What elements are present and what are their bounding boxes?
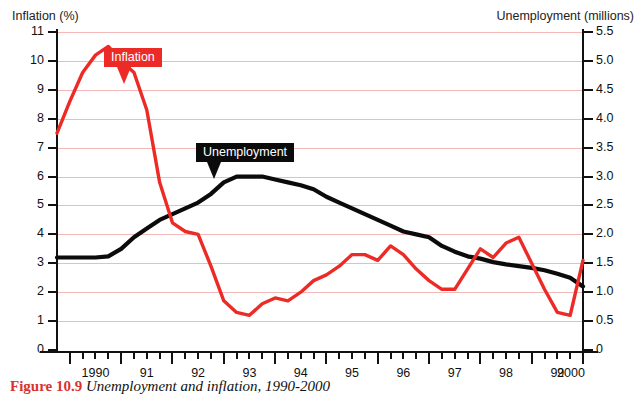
figure-caption: Figure 10.9 Unemployment and inflation, …: [10, 378, 330, 395]
unemployment-callout: Unemployment: [196, 143, 294, 162]
right-tick: [584, 233, 593, 235]
left-tick-label: 11: [31, 25, 44, 38]
x-tick-label: 97: [448, 366, 462, 380]
x-tick-minor: [518, 353, 520, 359]
left-tick: [48, 291, 57, 293]
left-axis-title: Inflation (%): [12, 9, 79, 23]
left-tick-label: 8: [37, 112, 44, 125]
x-tick-minor: [569, 353, 571, 359]
x-tick-minor: [236, 353, 238, 359]
figure-caption-text: Unemployment and inflation, 1990-2000: [82, 378, 330, 394]
x-tick-major: [274, 353, 276, 364]
x-tick-major: [531, 353, 533, 364]
x-tick-minor: [184, 353, 186, 359]
right-tick: [584, 349, 593, 351]
x-tick-minor: [107, 353, 109, 359]
left-tick: [48, 176, 57, 178]
x-tick-minor: [248, 353, 250, 359]
x-tick-minor: [300, 353, 302, 359]
right-tick-label: 4.0: [596, 112, 613, 125]
left-tick: [48, 31, 57, 33]
gridline: [57, 90, 583, 91]
right-tick: [584, 262, 593, 264]
left-tick-label: 6: [37, 170, 44, 183]
right-tick: [584, 291, 593, 293]
x-tick-minor: [505, 353, 507, 359]
x-tick-label: 96: [396, 366, 410, 380]
x-tick-minor: [351, 353, 353, 359]
inflation-callout-label: Inflation: [111, 50, 155, 64]
x-tick-minor: [454, 353, 456, 359]
right-tick: [584, 118, 593, 120]
right-tick: [584, 204, 593, 206]
left-tick: [48, 118, 57, 120]
left-tick-label: 9: [37, 83, 44, 96]
x-tick-major: [428, 353, 430, 364]
left-tick: [48, 60, 57, 62]
left-tick: [48, 349, 57, 351]
left-tick-label: 7: [37, 141, 44, 154]
left-tick: [48, 262, 57, 264]
x-tick-minor: [338, 353, 340, 359]
x-tick-minor: [441, 353, 443, 359]
x-tick-major: [377, 353, 379, 364]
gridline: [57, 205, 583, 206]
x-tick-minor: [82, 353, 84, 359]
left-tick-label: 10: [30, 54, 44, 67]
x-tick-major: [69, 353, 71, 364]
x-tick-label: 95: [345, 366, 359, 380]
inflation-callout: Inflation: [104, 48, 162, 67]
x-tick-minor: [159, 353, 161, 359]
right-tick-label: 5.5: [596, 25, 613, 38]
x-tick-minor: [556, 353, 558, 359]
plot-area: [57, 32, 583, 350]
x-tick-minor: [146, 353, 148, 359]
left-tick: [48, 147, 57, 149]
right-tick-label: 3.5: [596, 141, 613, 154]
left-tick: [48, 320, 57, 322]
left-tick: [48, 89, 57, 91]
right-tick-label: 3.0: [596, 170, 613, 183]
right-tick-label: 4.5: [596, 83, 613, 96]
x-tick-minor: [133, 353, 135, 359]
figure-number: Figure 10.9: [10, 378, 82, 394]
x-tick-minor: [94, 353, 96, 359]
inflation-callout-tail: [117, 67, 131, 84]
right-tick-label: 0.5: [596, 314, 613, 327]
bottom-axis-line: [40, 351, 598, 353]
gridline: [57, 119, 583, 120]
right-tick: [584, 89, 593, 91]
right-tick-label: 2.0: [596, 227, 613, 240]
right-tick: [584, 60, 593, 62]
right-tick: [584, 320, 593, 322]
x-tick-minor: [492, 353, 494, 359]
x-tick-minor: [287, 353, 289, 359]
x-tick-label: 2000: [557, 366, 585, 380]
left-tick: [48, 204, 57, 206]
x-tick-major: [582, 353, 584, 364]
x-tick-major: [171, 353, 173, 364]
x-tick-major: [479, 353, 481, 364]
gridline: [57, 234, 583, 235]
left-tick-label: 4: [37, 227, 44, 240]
gridline: [57, 321, 583, 322]
unemployment-callout-label: Unemployment: [203, 145, 287, 159]
gridline: [57, 292, 583, 293]
right-tick-label: 1.0: [596, 285, 613, 298]
right-tick-label: 5.0: [596, 54, 613, 67]
left-tick-label: 1: [37, 314, 44, 327]
x-tick-label: 98: [499, 366, 513, 380]
gridline: [57, 177, 583, 178]
x-tick-minor: [261, 353, 263, 359]
x-tick-minor: [467, 353, 469, 359]
right-tick-label: 2.5: [596, 198, 613, 211]
x-tick-minor: [544, 353, 546, 359]
right-axis-line: [582, 29, 584, 353]
x-tick-minor: [364, 353, 366, 359]
right-tick-label: 1.5: [596, 256, 613, 269]
x-tick-minor: [415, 353, 417, 359]
right-tick: [584, 176, 593, 178]
x-tick-minor: [197, 353, 199, 359]
x-tick-major: [120, 353, 122, 364]
figure-container: Inflation (%) Unemployment (millions) 11…: [0, 0, 638, 398]
